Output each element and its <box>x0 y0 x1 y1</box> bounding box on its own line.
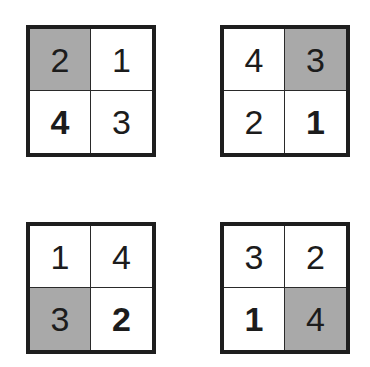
cell-top-left: 2 <box>30 29 91 91</box>
cell-top-left: 4 <box>224 29 285 91</box>
cell-top-left: 1 <box>30 226 91 288</box>
cell-top-right: 2 <box>285 226 346 288</box>
cell-bottom-right: 3 <box>91 91 152 153</box>
cell-top-right: 4 <box>91 226 152 288</box>
cell-bottom-left: 4 <box>30 91 91 153</box>
grid-bottom-right: 3 2 1 4 <box>220 222 350 354</box>
grid-bottom-left: 1 4 3 2 <box>26 222 156 354</box>
cell-top-right: 1 <box>91 29 152 91</box>
grid-top-left: 2 1 4 3 <box>26 25 156 157</box>
cell-bottom-right: 2 <box>91 288 152 350</box>
cell-bottom-left: 1 <box>224 288 285 350</box>
grid-top-right: 4 3 2 1 <box>220 25 350 157</box>
cell-bottom-left: 3 <box>30 288 91 350</box>
cell-bottom-right: 4 <box>285 288 346 350</box>
cell-top-left: 3 <box>224 226 285 288</box>
cell-top-right: 3 <box>285 29 346 91</box>
cell-bottom-left: 2 <box>224 91 285 153</box>
cell-bottom-right: 1 <box>285 91 346 153</box>
